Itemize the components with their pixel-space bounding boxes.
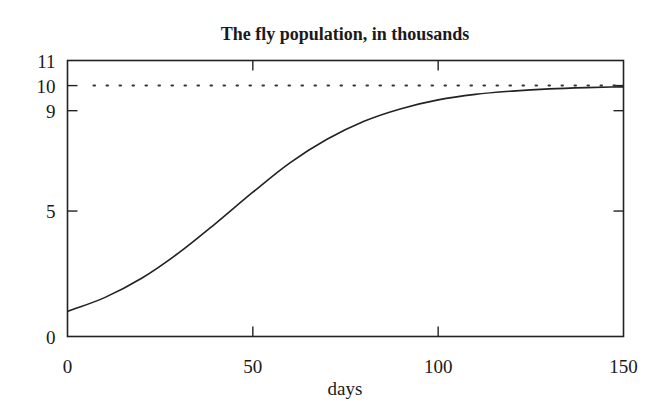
y-tick-label: 5 — [46, 201, 56, 222]
x-tick-label: 0 — [63, 356, 73, 377]
x-tick-label: 150 — [609, 356, 638, 377]
plot-frame — [68, 61, 624, 337]
y-tick-label: 11 — [37, 51, 55, 72]
chart-title: The fly population, in thousands — [221, 24, 470, 44]
y-axis-ticks: 0591011 — [37, 51, 624, 348]
y-tick-label: 9 — [46, 101, 56, 122]
x-axis-label: days — [328, 378, 363, 399]
fly-population-chart: The fly population, in thousands 0591011… — [0, 0, 662, 416]
population-curve — [68, 87, 624, 312]
x-axis-ticks: 050100150 — [63, 61, 638, 378]
x-tick-label: 100 — [424, 356, 453, 377]
x-tick-label: 50 — [243, 356, 262, 377]
y-tick-label: 0 — [46, 327, 56, 348]
y-tick-label: 10 — [37, 76, 56, 97]
